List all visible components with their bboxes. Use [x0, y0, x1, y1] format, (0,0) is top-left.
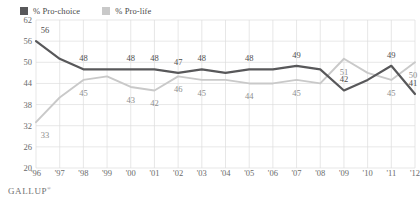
legend-item-pro-life[interactable]: % Pro-life [102, 6, 151, 16]
x-axis-tick: '04 [220, 168, 230, 178]
y-axis-tick: 56 [24, 36, 33, 46]
data-point-label: 43 [127, 95, 136, 105]
x-axis-tick: '99 [102, 168, 112, 178]
x-axis-tick: '02 [173, 168, 183, 178]
series-canvas [36, 20, 415, 168]
plot-area-wrapper: 6256504438322620 56484848474848494249413… [0, 20, 419, 168]
data-point-label: 49 [292, 50, 301, 60]
data-point-label: 46 [174, 84, 183, 94]
y-axis-tick: 26 [24, 142, 33, 152]
y-axis: 6256504438322620 [0, 20, 34, 168]
y-axis-tick: 44 [24, 78, 33, 88]
x-axis-tick: '05 [244, 168, 254, 178]
y-axis-tick: 38 [24, 100, 33, 110]
x-axis-tick: '11 [386, 168, 396, 178]
x-axis-tick: '96 [31, 168, 41, 178]
data-point-label: 48 [79, 53, 88, 63]
legend-label: % Pro-choice [33, 6, 80, 16]
x-axis-tick: '98 [78, 168, 88, 178]
trademark-symbol: ® [47, 186, 51, 191]
data-point-label: 42 [150, 98, 159, 108]
x-axis-tick: '07 [292, 168, 302, 178]
data-point-label: 48 [127, 53, 136, 63]
x-axis-tick: '97 [55, 168, 65, 178]
data-point-label: 45 [387, 88, 396, 98]
x-axis-tick: '01 [149, 168, 159, 178]
x-axis-tick: '00 [126, 168, 136, 178]
legend-swatch-icon [102, 7, 110, 15]
data-point-label: 44 [245, 91, 254, 101]
data-point-label: 45 [198, 88, 207, 98]
plot-area [36, 20, 415, 168]
y-axis-tick: 62 [24, 15, 33, 25]
x-axis-tick: '03 [197, 168, 207, 178]
legend-label: % Pro-life [115, 6, 151, 16]
data-point-label: 51 [340, 67, 349, 77]
y-axis-tick: 50 [24, 57, 33, 67]
data-point-label: 48 [198, 53, 207, 63]
data-point-label: 45 [292, 88, 301, 98]
x-axis-tick: '06 [268, 168, 278, 178]
data-point-label: 33 [41, 130, 50, 140]
x-axis-tick: '09 [339, 168, 349, 178]
data-point-label: 50 [409, 70, 418, 80]
x-axis-tick: '08 [315, 168, 325, 178]
data-point-label: 48 [150, 53, 159, 63]
x-axis: '96'97'98'99'00'01'02'03'04'05'06'07'08'… [36, 168, 415, 182]
chart-legend: % Pro-choice% Pro-life [20, 4, 151, 18]
grid-lines [36, 20, 415, 168]
y-axis-tick: 32 [24, 121, 33, 131]
x-axis-tick: '12 [410, 168, 420, 178]
data-point-label: 49 [387, 50, 396, 60]
source-attribution: GALLUP® [8, 186, 51, 196]
source-label: GALLUP [8, 186, 47, 196]
data-point-label: 56 [41, 25, 50, 35]
legend-swatch-icon [20, 7, 28, 15]
data-point-label: 47 [174, 57, 183, 67]
x-axis-tick: '10 [363, 168, 373, 178]
data-point-label: 48 [245, 53, 254, 63]
data-point-label: 45 [79, 88, 88, 98]
